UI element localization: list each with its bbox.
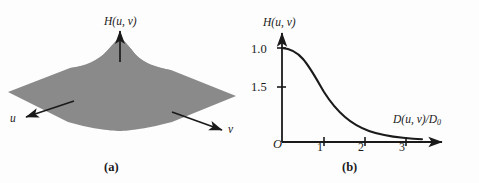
origin-label: O — [273, 137, 282, 152]
axis-label-h-panel-a: H(u, v) — [104, 16, 137, 28]
panel-a: H(u, v) u v (a) — [0, 0, 245, 183]
xtick-label-3: 3 — [399, 140, 405, 155]
axis-label-h-panel-b: H(u, v) — [263, 17, 296, 29]
axis-label-v: v — [228, 124, 233, 136]
ytick-label-1-0: 1.0 — [251, 42, 267, 57]
axis-label-d: D(u, v)/D0 — [393, 114, 441, 127]
xtick-label-2: 2 — [358, 140, 364, 155]
caption-panel-a: (a) — [104, 160, 119, 175]
axis-label-d-subscript: 0 — [437, 118, 441, 127]
axis-label-u: u — [10, 113, 16, 125]
figure-container: H(u, v) u v (a) — [0, 0, 479, 183]
panel-b: H(u, v) D(u, v)/D0 1.0 1.5 1 2 3 O (b) — [245, 0, 479, 183]
caption-panel-b: (b) — [342, 160, 357, 175]
ytick-label-1-5: 1.5 — [251, 80, 267, 95]
xtick-label-1: 1 — [317, 140, 323, 155]
axis-v — [172, 112, 222, 130]
